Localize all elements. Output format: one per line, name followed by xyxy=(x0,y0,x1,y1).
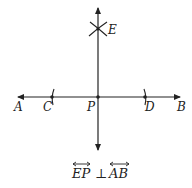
point-p xyxy=(96,95,100,99)
point-e xyxy=(96,27,99,30)
label-e: E xyxy=(107,23,117,37)
label-c: C xyxy=(43,100,52,114)
point-d xyxy=(143,95,147,99)
label-b: B xyxy=(176,100,186,114)
point-c xyxy=(50,95,54,99)
caption-line-ab: AB xyxy=(108,166,128,181)
caption-perpendicular: EP ⊥ AB xyxy=(71,162,129,181)
label-a: A xyxy=(13,100,23,114)
perpendicular-construction-diagram: E A C P D B EP ⊥ AB xyxy=(0,0,192,188)
perpendicular-symbol: ⊥ xyxy=(95,166,107,181)
caption-line-ep: EP xyxy=(71,166,90,181)
label-d: D xyxy=(144,100,155,114)
label-p: P xyxy=(86,100,96,114)
